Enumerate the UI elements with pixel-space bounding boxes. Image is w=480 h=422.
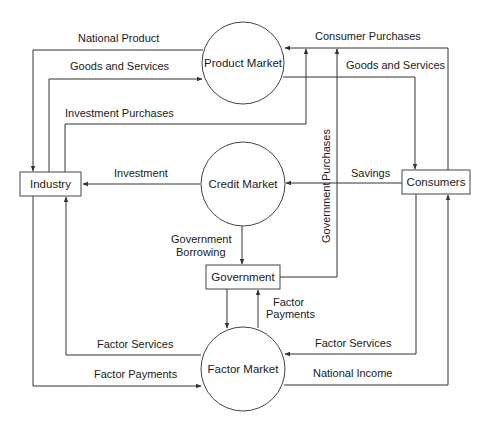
label-factor-payments-gov-1: Factor [273, 296, 305, 308]
label-government-purchases-2: Purchases [320, 129, 332, 181]
label-consumer-purchases: Consumer Purchases [315, 30, 421, 42]
node-industry: Industry [20, 172, 81, 196]
label-goods-services-left: Goods and Services [70, 60, 170, 72]
label-government-purchases-1: Government [320, 182, 332, 243]
label-government-borrowing-2: Borrowing [176, 246, 226, 258]
flow-factor-services-right-arrow [285, 194, 416, 354]
diagram-canvas: Product Market Credit Market Factor Mark… [0, 0, 480, 422]
government-label: Government [211, 271, 275, 283]
node-product-market: Product Market [202, 22, 284, 104]
industry-label: Industry [30, 178, 71, 190]
circular-flow-diagram: Product Market Credit Market Factor Mark… [0, 0, 480, 422]
flow-national-income-arrow [284, 195, 448, 385]
node-consumers: Consumers [402, 170, 470, 194]
label-savings: Savings [351, 167, 391, 179]
flow-factor-services-left-arrow [66, 197, 201, 355]
flow-goods-services-right-arrow [283, 77, 415, 169]
consumers-label: Consumers [407, 176, 466, 188]
credit-market-label: Credit Market [208, 178, 278, 190]
label-factor-payments-left: Factor Payments [94, 368, 178, 380]
node-credit-market: Credit Market [201, 142, 285, 226]
label-national-product: National Product [78, 32, 159, 44]
flow-factor-payments-left-arrow [33, 196, 201, 386]
label-government-borrowing-1: Government [171, 233, 232, 245]
label-investment: Investment [114, 167, 168, 179]
node-government: Government [206, 265, 280, 289]
label-factor-services-left: Factor Services [97, 338, 174, 350]
label-investment-purchases: Investment Purchases [65, 107, 174, 119]
label-goods-services-right: Goods and Services [346, 59, 446, 71]
label-national-income: National Income [313, 367, 393, 379]
node-factor-market: Factor Market [201, 327, 285, 411]
label-factor-payments-gov-2: Payments [266, 308, 315, 320]
label-factor-services-right: Factor Services [315, 337, 392, 349]
factor-market-label: Factor Market [208, 363, 280, 375]
product-market-label: Product Market [204, 57, 283, 69]
flow-goods-services-left-arrow [49, 79, 202, 172]
